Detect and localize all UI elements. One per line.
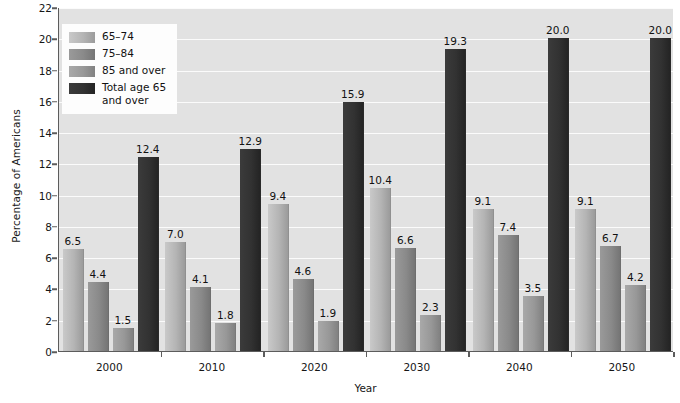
bar[interactable]: 20.0 bbox=[548, 38, 569, 351]
x-tick-mark bbox=[366, 352, 368, 357]
bar-value-label: 7.0 bbox=[167, 228, 184, 240]
y-tick-label: 12 bbox=[6, 158, 52, 170]
y-tick-mark bbox=[52, 195, 57, 197]
bar[interactable]: 9.1 bbox=[473, 209, 494, 351]
bar[interactable]: 4.4 bbox=[88, 282, 109, 351]
bar[interactable]: 1.9 bbox=[318, 321, 339, 351]
x-tick-label: 2010 bbox=[172, 361, 252, 373]
bar-value-label: 6.7 bbox=[602, 232, 619, 244]
legend-item[interactable]: 85 and over bbox=[69, 64, 170, 77]
x-tick-label: 2020 bbox=[274, 361, 354, 373]
y-tick-mark bbox=[52, 70, 57, 72]
bar-value-label: 2.3 bbox=[422, 301, 439, 313]
legend-swatch-icon bbox=[69, 32, 95, 43]
bar[interactable]: 6.6 bbox=[395, 248, 416, 351]
bar[interactable]: 1.5 bbox=[113, 328, 134, 351]
bar-value-label: 10.4 bbox=[369, 174, 392, 186]
y-tick-label: 16 bbox=[6, 96, 52, 108]
bar[interactable]: 7.0 bbox=[165, 242, 186, 351]
bar-value-label: 1.8 bbox=[217, 309, 234, 321]
x-tick-mark bbox=[263, 352, 265, 357]
bar-value-label: 20.0 bbox=[546, 24, 569, 36]
x-tick-mark bbox=[571, 352, 573, 357]
x-tick-mark bbox=[468, 352, 470, 357]
y-tick-label: 22 bbox=[6, 2, 52, 14]
bar-group: 10.46.62.319.3 bbox=[367, 8, 470, 351]
bar[interactable]: 4.2 bbox=[625, 285, 646, 351]
legend-swatch-icon bbox=[69, 66, 95, 77]
y-tick-mark bbox=[52, 132, 57, 134]
bar-value-label: 3.5 bbox=[524, 282, 541, 294]
y-tick-label: 2 bbox=[6, 315, 52, 327]
y-axis-ticks: 0246810121416182022 bbox=[0, 8, 52, 352]
bar[interactable]: 2.3 bbox=[420, 315, 441, 351]
bar-group: 9.44.61.915.9 bbox=[264, 8, 367, 351]
bar[interactable]: 19.3 bbox=[445, 49, 466, 351]
bar[interactable]: 6.5 bbox=[63, 249, 84, 351]
chart-legend: 65–7475–8485 and overTotal age 65 and ov… bbox=[62, 24, 177, 114]
y-tick-mark bbox=[52, 39, 57, 41]
legend-item-label: 85 and over bbox=[102, 64, 165, 77]
bar-value-label: 4.2 bbox=[627, 271, 644, 283]
bar[interactable]: 4.6 bbox=[293, 279, 314, 351]
y-tick-mark bbox=[52, 164, 57, 166]
legend-swatch-icon bbox=[69, 49, 95, 60]
bar[interactable]: 12.4 bbox=[138, 157, 159, 351]
y-tick-label: 8 bbox=[6, 221, 52, 233]
bar-value-label: 15.9 bbox=[341, 88, 364, 100]
bar-value-label: 1.9 bbox=[319, 307, 336, 319]
bar-value-label: 7.4 bbox=[499, 221, 516, 233]
legend-item[interactable]: 75–84 bbox=[69, 47, 170, 60]
y-tick-label: 0 bbox=[6, 346, 52, 358]
legend-item[interactable]: Total age 65 and over bbox=[69, 81, 170, 107]
bar-value-label: 6.6 bbox=[397, 234, 414, 246]
y-tick-label: 6 bbox=[6, 252, 52, 264]
bar-group: 9.17.43.520.0 bbox=[469, 8, 572, 351]
bar[interactable]: 10.4 bbox=[370, 188, 391, 351]
bar-value-label: 6.5 bbox=[64, 235, 81, 247]
bar[interactable]: 3.5 bbox=[523, 296, 544, 351]
x-tick-label: 2050 bbox=[582, 361, 662, 373]
x-tick-mark bbox=[673, 352, 675, 357]
bar-value-label: 9.4 bbox=[269, 190, 286, 202]
bar-value-label: 1.5 bbox=[114, 314, 131, 326]
bar[interactable]: 15.9 bbox=[343, 102, 364, 351]
bar-value-label: 12.4 bbox=[136, 143, 159, 155]
x-axis-title: Year bbox=[58, 382, 673, 394]
bar-value-label: 4.6 bbox=[294, 265, 311, 277]
bar-value-label: 19.3 bbox=[444, 35, 467, 47]
bar-value-label: 9.1 bbox=[474, 195, 491, 207]
bar[interactable]: 20.0 bbox=[650, 38, 671, 351]
bar-chart: Percentage of Americans 0246810121416182… bbox=[0, 0, 680, 403]
y-tick-label: 4 bbox=[6, 283, 52, 295]
bar[interactable]: 9.1 bbox=[575, 209, 596, 351]
legend-swatch-icon bbox=[69, 83, 95, 94]
bar[interactable]: 6.7 bbox=[600, 246, 621, 351]
y-tick-mark bbox=[52, 7, 57, 9]
y-tick-mark bbox=[52, 226, 57, 228]
bar-value-label: 12.9 bbox=[239, 135, 262, 147]
y-tick-mark bbox=[52, 320, 57, 322]
bar[interactable]: 9.4 bbox=[268, 204, 289, 351]
legend-item-label: 65–74 bbox=[102, 30, 134, 43]
y-tick-mark bbox=[52, 101, 57, 103]
bar[interactable]: 7.4 bbox=[498, 235, 519, 351]
bar[interactable]: 12.9 bbox=[240, 149, 261, 351]
bar[interactable]: 4.1 bbox=[190, 287, 211, 351]
bar-group: 9.16.74.220.0 bbox=[572, 8, 675, 351]
x-tick-label: 2030 bbox=[377, 361, 457, 373]
legend-item-label: 75–84 bbox=[102, 47, 134, 60]
y-tick-label: 14 bbox=[6, 127, 52, 139]
x-tick-label: 2040 bbox=[479, 361, 559, 373]
y-tick-label: 20 bbox=[6, 33, 52, 45]
x-tick-mark bbox=[161, 352, 163, 357]
y-tick-mark bbox=[52, 351, 57, 353]
y-tick-label: 10 bbox=[6, 190, 52, 202]
legend-item-label: Total age 65 and over bbox=[102, 81, 170, 107]
bar-value-label: 4.4 bbox=[89, 268, 106, 280]
x-tick-label: 2000 bbox=[69, 361, 149, 373]
bar[interactable]: 1.8 bbox=[215, 323, 236, 351]
y-tick-mark bbox=[52, 257, 57, 259]
legend-item[interactable]: 65–74 bbox=[69, 30, 170, 43]
bar-value-label: 4.1 bbox=[192, 273, 209, 285]
